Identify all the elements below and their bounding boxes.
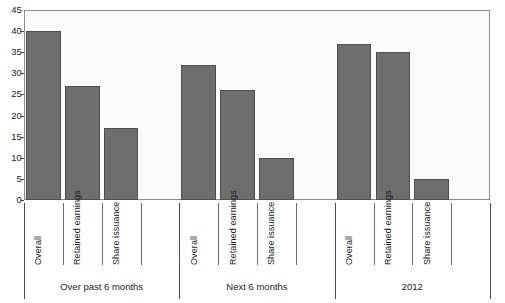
category-divider — [451, 203, 452, 265]
y-axis-tick-mark — [20, 116, 24, 117]
category-label: Overall — [345, 236, 354, 265]
category-divider — [257, 203, 258, 265]
category-label-slot: Retained earnings — [63, 195, 102, 267]
category-divider — [412, 203, 413, 265]
y-axis-tick-mark — [20, 73, 24, 74]
bar — [65, 86, 100, 200]
y-axis-tick-label: 35 — [2, 47, 22, 57]
category-label-slot: Overall — [179, 195, 218, 267]
y-axis-tick-label: 40 — [2, 26, 22, 36]
category-label: Share issuance — [112, 202, 121, 265]
y-axis-tick-label: 20 — [2, 111, 22, 121]
category-divider — [102, 203, 103, 265]
y-axis-tick-mark — [20, 158, 24, 159]
category-label: Overall — [190, 236, 199, 265]
category-label: Share issuance — [423, 202, 432, 265]
bar — [26, 31, 61, 200]
category-label: Retained earnings — [229, 190, 238, 265]
y-axis-tick-mark — [20, 31, 24, 32]
y-axis-tick-label: 10 — [2, 153, 22, 163]
y-axis-tick-label: 0 — [2, 195, 22, 205]
category-label: Share issuance — [267, 202, 276, 265]
y-axis-tick-mark — [20, 52, 24, 53]
y-axis-tick-mark — [20, 179, 24, 180]
bar — [220, 90, 255, 200]
bar — [259, 158, 294, 200]
category-divider — [218, 203, 219, 265]
y-axis-tick-label: 30 — [2, 69, 22, 79]
category-label-slot: Share issuance — [102, 195, 141, 267]
bar-chart: 051015202530354045 OverallRetained earni… — [0, 0, 505, 303]
category-label-slot: Share issuance — [257, 195, 296, 267]
group-label: Over past 6 months — [24, 282, 179, 292]
y-axis-tick-label: 45 — [2, 5, 22, 15]
y-axis-tick-mark — [20, 94, 24, 95]
y-axis-tick-label: 5 — [2, 174, 22, 184]
category-label-slot: Retained earnings — [374, 195, 413, 267]
bar — [337, 44, 372, 200]
bar — [104, 128, 139, 200]
bar — [376, 52, 411, 200]
category-divider — [296, 203, 297, 265]
category-divider — [63, 203, 64, 265]
y-axis-tick-mark — [20, 200, 24, 201]
category-label-slot: Retained earnings — [218, 195, 257, 267]
category-label-slot: Overall — [24, 195, 63, 267]
group-divider — [490, 203, 491, 299]
category-label-slot: Overall — [335, 195, 374, 267]
y-axis-tick-label: 25 — [2, 90, 22, 100]
category-divider — [141, 203, 142, 265]
y-axis: 051015202530354045 — [0, 0, 22, 303]
y-axis-tick-mark — [20, 137, 24, 138]
group-label: Next 6 months — [179, 282, 334, 292]
category-divider — [374, 203, 375, 265]
category-label: Overall — [34, 236, 43, 265]
bar — [181, 65, 216, 200]
category-label: Retained earnings — [73, 190, 82, 265]
category-label-slot: Share issuance — [412, 195, 451, 267]
group-label: 2012 — [335, 282, 490, 292]
category-label: Retained earnings — [384, 190, 393, 265]
y-axis-tick-label: 15 — [2, 132, 22, 142]
